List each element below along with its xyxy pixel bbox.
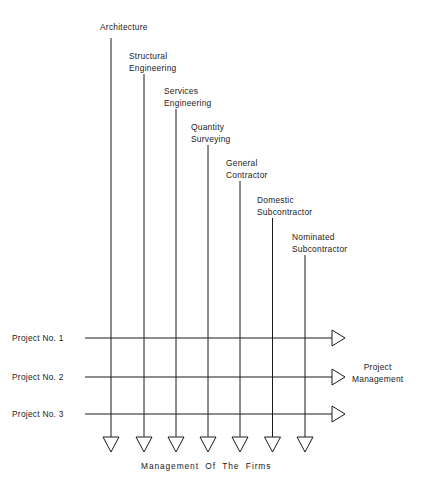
discipline-label-structural-engineering: StructuralEngineering [129,50,176,74]
discipline-label-domestic-subcontractor: DomesticSubcontractor [257,194,312,218]
project-arrowhead-project-3 [332,406,345,422]
discipline-label-line2: Subcontractor [257,206,312,218]
discipline-label-line2: Engineering [129,62,176,74]
discipline-label-services-engineering: ServicesEngineering [164,85,211,109]
diagram-vector-layer [0,0,428,497]
discipline-label-line2: Contractor [226,169,268,181]
discipline-arrowheads-group [103,437,313,452]
project-arrowheads-group [332,330,345,422]
discipline-label-line1: Structural [129,50,176,62]
project-label-project-2: Project No. 2 [12,371,64,383]
discipline-label-line2: Surveying [191,133,231,145]
discipline-arrowhead-nominated-subcontractor [297,437,313,452]
discipline-label-line1: Domestic [257,194,312,206]
project-management-line2: Management [352,373,403,385]
discipline-label-line2: Engineering [164,97,211,109]
diagram-canvas: ArchitectureStructuralEngineeringService… [0,0,428,497]
project-management-line1: Project [352,361,403,373]
project-arrowhead-project-2 [332,369,345,385]
discipline-arrowhead-general-contractor [232,437,248,452]
discipline-label-quantity-surveying: QuantitySurveying [191,121,231,145]
discipline-arrowhead-architecture [103,437,119,452]
discipline-arrowhead-domestic-subcontractor [265,437,281,452]
discipline-label-line1: General [226,157,268,169]
discipline-label-line1: Nominated [292,231,347,243]
discipline-label-line2: Subcontractor [292,243,347,255]
discipline-label-general-contractor: GeneralContractor [226,157,268,181]
discipline-label-line1: Quantity [191,121,231,133]
project-arrowhead-project-1 [332,330,345,346]
discipline-arrowhead-quantity-surveying [200,437,216,452]
discipline-arrowhead-structural-engineering [136,437,152,452]
discipline-arrowhead-services-engineering [168,437,184,452]
management-of-the-firms-label: Management Of The Firms [141,460,271,472]
discipline-label-architecture: Architecture [100,21,148,33]
discipline-label-line1: Services [164,85,211,97]
discipline-label-nominated-subcontractor: NominatedSubcontractor [292,231,347,255]
project-management-label: ProjectManagement [352,361,403,385]
discipline-label-line1: Architecture [100,21,148,33]
project-label-project-3: Project No. 3 [12,408,64,420]
project-label-project-1: Project No. 1 [12,332,64,344]
